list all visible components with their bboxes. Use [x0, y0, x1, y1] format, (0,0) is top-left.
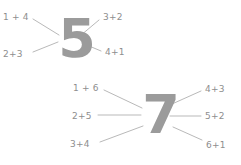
number-bond-7: 71 + 64+32+55+23+46+1 — [0, 0, 241, 165]
addend-pair-6-plus-1: 6+1 — [206, 141, 226, 150]
connector-line-1-6 — [104, 90, 142, 108]
number-bond-7-connector-lines — [0, 0, 241, 165]
addend-pair-3-plus-4: 3+4 — [70, 140, 90, 149]
addend-pair-1-plus-6: 1 + 6 — [73, 84, 99, 93]
addend-pair-5-plus-2: 5+2 — [205, 112, 225, 121]
connector-line-3-4 — [100, 126, 143, 142]
sum-numeral-7: 7 — [140, 88, 182, 142]
addend-pair-4-plus-3: 4+3 — [205, 85, 225, 94]
worksheet-canvas: 51 + 43+22+34+171 + 64+32+55+23+46+1 — [0, 0, 241, 165]
addend-pair-2-plus-5: 2+5 — [72, 112, 92, 121]
